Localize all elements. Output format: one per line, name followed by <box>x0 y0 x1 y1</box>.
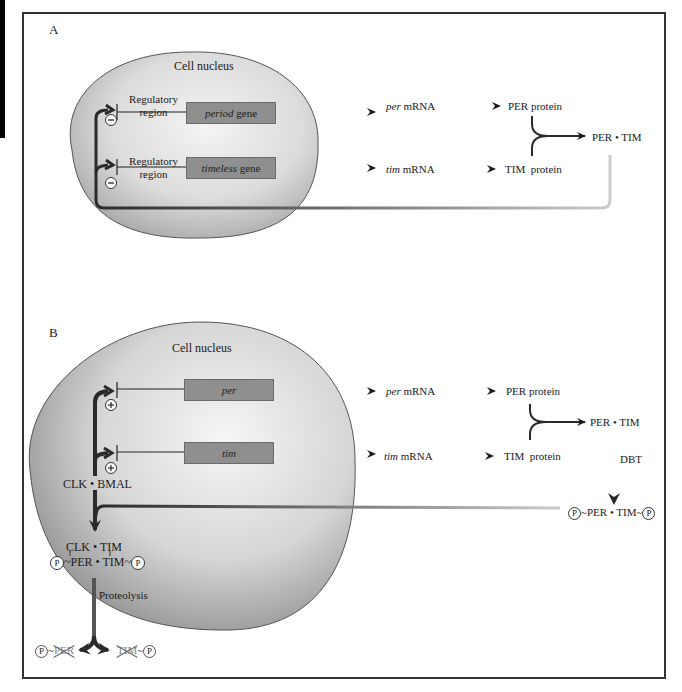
panel-a-per-protein: PER protein <box>508 101 562 112</box>
plus-sign-icon <box>104 398 118 412</box>
phosphate-icon: P <box>642 507 655 520</box>
panel-b-per-mrna: per mRNA <box>386 386 435 397</box>
crossed-out-tim: TIM <box>117 645 137 656</box>
phosphate-icon: P <box>131 556 145 570</box>
panel-b-per-gene-box: per <box>184 379 274 401</box>
panel-a-regulatory-region-period: Regulatory region <box>126 93 181 119</box>
panel-a-per-mrna: per mRNA <box>386 101 435 112</box>
panel-b-per-tim-complex: PER • TIM <box>590 417 640 428</box>
phosphorylated-per-tim: P~PER • TIM~P <box>568 507 655 520</box>
phosphate-icon: P <box>143 645 156 658</box>
panel-a-tim-mrna: tim mRNA <box>386 164 435 175</box>
panel-b-nucleus-label: Cell nucleus <box>172 342 232 354</box>
plus-sign-icon <box>104 461 118 475</box>
panel-b-tim-gene-box: tim <box>184 442 274 464</box>
phosphate-icon: P <box>35 645 48 658</box>
nucleus-a <box>70 52 318 238</box>
degraded-per: P~PER <box>35 645 74 658</box>
panel-a-period-gene-box: period gene <box>186 102 276 124</box>
dbt-kinase-label: DBT <box>620 454 642 465</box>
nuclear-phospho-complex: P~PER • TIM~P <box>50 556 145 570</box>
crossed-out-per: PER <box>54 645 74 656</box>
panel-a-letter: A <box>49 22 58 38</box>
panel-b-tim-protein: TIM protein <box>504 451 561 462</box>
panel-a-per-tim-complex: PER • TIM <box>592 132 642 143</box>
panel-b-letter: B <box>49 325 58 341</box>
minus-sign-icon <box>104 113 118 127</box>
panel-b-tim-mrna: tim mRNA <box>384 451 433 462</box>
minus-sign-icon <box>104 176 118 190</box>
panel-a-tim-protein: TIM protein <box>505 164 562 175</box>
panel-a-regulatory-region-timeless: Regulatory region <box>126 155 181 181</box>
clk-tim-label: CLK • TIM <box>66 541 122 553</box>
clk-bmal-label: CLK • BMAL <box>63 478 132 490</box>
proteolysis-label: Proteolysis <box>99 590 148 601</box>
panel-a-timeless-gene-box: timeless gene <box>186 157 276 179</box>
phosphate-icon: P <box>568 507 581 520</box>
panel-b-per-protein: PER protein <box>506 386 560 397</box>
phosphate-icon: P <box>50 556 64 570</box>
degraded-tim: TIM~P <box>117 645 156 658</box>
panel-a-nucleus-label: Cell nucleus <box>174 60 234 72</box>
